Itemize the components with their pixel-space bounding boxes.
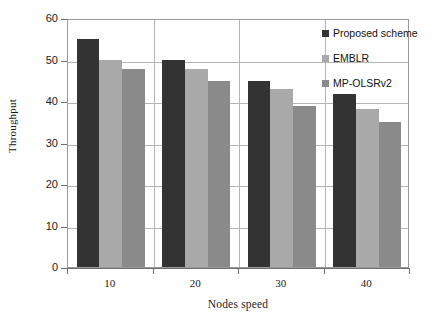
x-axis-tick-label: 30 [251, 277, 311, 289]
bar [99, 60, 122, 268]
y-axis-tick-label: 50 [2, 55, 58, 66]
legend-label: EMBLR [333, 52, 369, 65]
y-axis-label-wrap: 50 [0, 55, 58, 66]
y-axis-tick-label: 60 [2, 13, 58, 24]
bar [185, 69, 208, 267]
bar [162, 60, 185, 268]
x-axis-tick-label: 10 [80, 277, 140, 289]
gridline-vertical [154, 20, 155, 267]
y-axis-tick-label: 40 [2, 96, 58, 107]
y-axis-label-wrap: 40 [0, 96, 58, 107]
legend-swatch-icon [322, 80, 329, 87]
x-axis-tick-label: 40 [336, 277, 396, 289]
y-axis-tick-label: 10 [2, 221, 58, 232]
bar [333, 94, 356, 267]
y-axis-label-wrap: 0 [0, 262, 58, 273]
x-axis-tick-label: 20 [165, 277, 225, 289]
y-axis-label-wrap: 20 [0, 179, 58, 190]
x-axis-title: Nodes speed [67, 298, 409, 310]
x-axis-tick [324, 269, 325, 274]
legend-swatch-icon [322, 30, 329, 37]
x-axis-tick [153, 269, 154, 274]
y-axis-title: Throughput [6, 76, 18, 176]
x-axis-tick [67, 269, 68, 274]
bar [122, 69, 145, 267]
x-axis-tick [409, 269, 410, 274]
bar [379, 122, 402, 267]
bar [270, 89, 293, 267]
legend-label: MP-OLSRv2 [333, 77, 392, 90]
y-axis-tick-label: 20 [2, 179, 58, 190]
bar [208, 81, 231, 267]
y-axis-tick-label: 0 [2, 262, 58, 273]
y-axis-label-wrap: 10 [0, 221, 58, 232]
y-axis-tick-label: 30 [2, 138, 58, 149]
bar [77, 39, 100, 267]
legend-label: Proposed scheme [333, 27, 418, 40]
legend-swatch-icon [322, 55, 329, 62]
bar [356, 109, 379, 267]
y-axis-label-wrap: 60 [0, 13, 58, 24]
x-axis-tick [238, 269, 239, 274]
bar [248, 81, 271, 267]
y-axis-label-wrap: 30 [0, 138, 58, 149]
gridline-vertical [239, 20, 240, 267]
throughput-bar-chart: Throughput 0102030405060 10203040 Nodes … [0, 0, 435, 326]
bar [293, 106, 316, 267]
